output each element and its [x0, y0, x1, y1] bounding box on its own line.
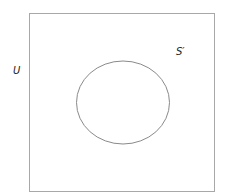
complement-label: S′ — [176, 47, 185, 57]
universe-rectangle — [30, 14, 215, 192]
set-s-circle — [77, 61, 170, 144]
universe-label: U — [13, 66, 20, 76]
venn-diagram — [0, 0, 229, 195]
